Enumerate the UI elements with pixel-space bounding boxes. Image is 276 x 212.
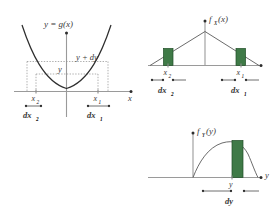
- fy-x-axis-label: y: [264, 170, 269, 180]
- fx-dx1-label-base: dx: [231, 85, 240, 95]
- fx-tick-label-x1: x 1: [236, 68, 245, 79]
- left-tick-label-x2-sub: 2: [37, 99, 40, 105]
- left-dx2-label: dx 2: [23, 110, 39, 122]
- fx-dx1-label: dx 1: [231, 85, 247, 97]
- fx-tick-label-x1-base: x: [236, 68, 241, 77]
- left-dx2-label-sub: 2: [35, 116, 39, 122]
- fx-dx2-label: dx 2: [158, 85, 174, 97]
- left-label-y-plus-dy: y + dy: [75, 52, 98, 62]
- left-y-axis-endpoint: [65, 32, 68, 35]
- fx-shaded-bar-x1: [236, 49, 246, 66]
- figure-root: y = g(x) y + dy y x x 2 x 1 dx 2 dx 1: [0, 0, 276, 212]
- fx-tick-label-x2-sub: 2: [169, 73, 172, 79]
- left-label-y: y: [57, 64, 62, 74]
- fy-axis-label-tail: (y): [206, 126, 216, 136]
- left-dx1-label-sub: 1: [100, 116, 103, 122]
- left-label-x-axis: x: [127, 93, 132, 103]
- fx-shaded-bar-x2: [164, 49, 174, 66]
- fy-density-curve: [193, 142, 258, 178]
- left-tick-label-x2: x 2: [31, 94, 40, 105]
- fy-x-axis-endpoint: [260, 176, 263, 179]
- fx-axis-label: f X (x): [209, 14, 228, 26]
- figure-canvas: y = g(x) y + dy y x x 2 x 1 dx 2 dx 1: [0, 0, 276, 212]
- fy-axis-label: f Y (y): [197, 126, 216, 138]
- fx-x-axis-endpoint: [260, 64, 263, 67]
- fy-dy-label: dy: [225, 196, 233, 206]
- left-tick-label-x1-sub: 1: [99, 99, 102, 105]
- fx-dx2-label-sub: 2: [170, 91, 174, 97]
- fx-tick-label-x2: x 2: [163, 68, 172, 79]
- fy-axis-label-base: f: [197, 126, 201, 136]
- left-dx2-label-base: dx: [23, 110, 32, 120]
- fx-dx2-label-base: dx: [158, 85, 167, 95]
- left-panel: y = g(x) y + dy y x x 2 x 1 dx 2 dx 1: [14, 19, 133, 122]
- fy-y-axis-endpoint: [192, 132, 195, 135]
- fx-axis-label-tail: (x): [218, 14, 228, 24]
- left-dx1-label: dx 1: [87, 110, 103, 122]
- top-right-panel: f X (x) x 2 x 1 dx 2 dx 1: [148, 14, 263, 97]
- left-function-label: y = g(x): [43, 19, 73, 29]
- left-tick-label-x1-base: x: [93, 94, 98, 103]
- left-tick-label-x2-base: x: [31, 94, 36, 103]
- fx-y-axis-endpoint: [204, 20, 207, 23]
- fx-axis-label-base: f: [209, 14, 213, 24]
- left-dx1-label-base: dx: [87, 110, 96, 120]
- fx-tick-label-x1-sub: 1: [242, 73, 245, 79]
- fx-tick-label-x2-base: x: [163, 68, 168, 77]
- fy-tick-label-y: y: [228, 180, 233, 189]
- fx-dx1-label-sub: 1: [244, 91, 247, 97]
- left-tick-label-x1: x 1: [93, 94, 102, 105]
- fy-shaded-bar: [232, 141, 243, 178]
- bottom-right-panel: f Y (y) y y dy: [148, 126, 269, 206]
